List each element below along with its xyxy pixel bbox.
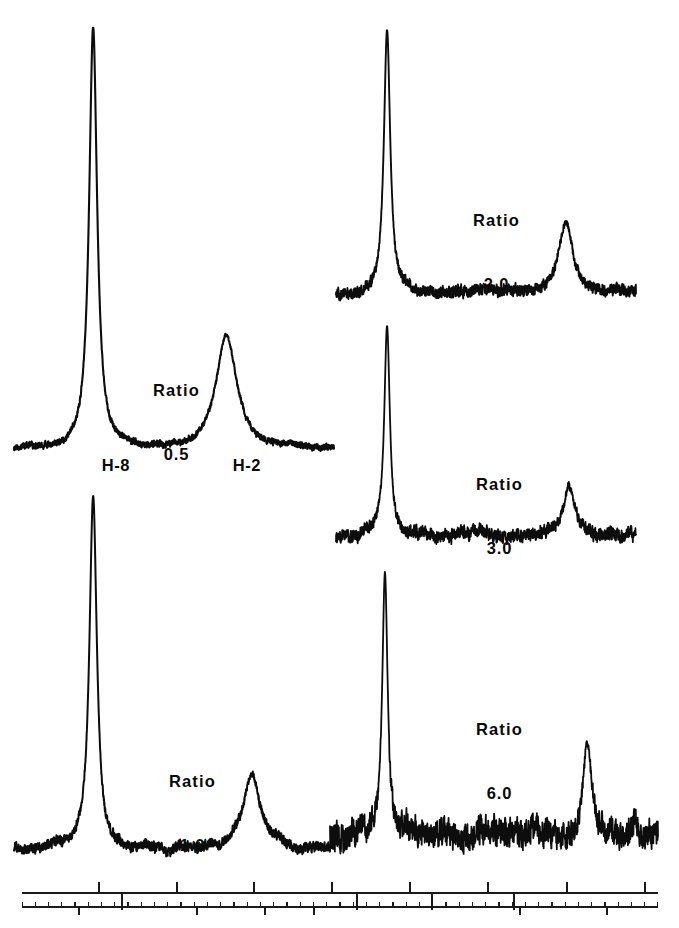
ratio-value: 2.0 xyxy=(449,274,544,295)
ratio-word: Ratio xyxy=(449,210,544,231)
ratio-label-0-5: Ratio 0.5 xyxy=(129,338,224,507)
ratio-word: Ratio xyxy=(145,771,240,792)
nmr-figure: Ratio 0.5 H-8 H-2 Ratio 2.0 Ratio 3.0 Ra… xyxy=(0,0,679,928)
ratio-value: 1.0 xyxy=(145,835,240,856)
ratio-value: 3.0 xyxy=(452,538,547,559)
peak-label-h8: H-8 xyxy=(81,437,130,494)
peak-label-h2: H-2 xyxy=(212,437,261,494)
calibration-scale-bar xyxy=(22,876,658,918)
ratio-word: Ratio xyxy=(452,719,547,740)
ratio-word: Ratio xyxy=(129,380,224,401)
ratio-label-1-0: Ratio 1.0 xyxy=(145,729,240,898)
ratio-label-2-0: Ratio 2.0 xyxy=(449,168,544,337)
ratio-value: 6.0 xyxy=(452,783,547,804)
ratio-word: Ratio xyxy=(452,474,547,495)
ratio-label-6-0: Ratio 6.0 xyxy=(452,677,547,846)
ratio-value: 0.5 xyxy=(129,444,224,465)
